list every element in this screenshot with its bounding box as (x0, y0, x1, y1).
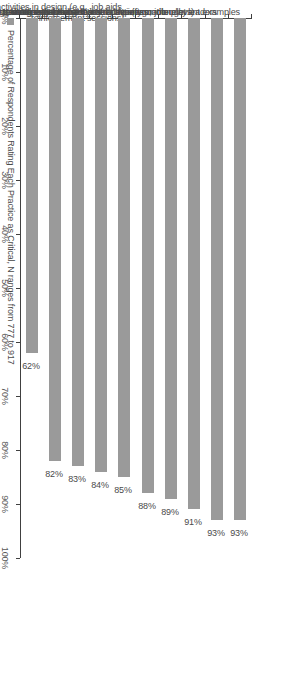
bar-value-label: 82% (45, 469, 62, 479)
value-axis-tick (16, 72, 20, 73)
bar-value-label: 89% (161, 507, 178, 517)
value-axis-tick (16, 504, 20, 505)
bar (72, 18, 84, 466)
bar-value-label: 85% (115, 485, 132, 495)
legend-label: Percentage of Respondents Rating Each Pr… (6, 30, 16, 365)
category-axis-tick (181, 14, 182, 18)
bar-value-label: 88% (138, 501, 155, 511)
value-axis-tick (16, 558, 20, 559)
bar-value-label: 93% (231, 528, 248, 538)
plot-area: 0%10%20%30%40%50%60%70%80%90%100% 93%93%… (20, 18, 252, 558)
bar (188, 18, 200, 509)
value-axis-tick-label: 100% (0, 547, 10, 569)
bar-value-label: 84% (91, 480, 108, 490)
value-axis-tick (16, 288, 20, 289)
category-axis-tick (251, 14, 252, 18)
category-axis-tick (89, 14, 90, 18)
category-axis-tick (205, 14, 206, 18)
legend-swatch-icon (8, 18, 15, 25)
value-axis-tick (16, 342, 20, 343)
category-axis-tick (135, 14, 136, 18)
bar (26, 18, 38, 353)
bar (95, 18, 107, 472)
category-axis-tick (19, 14, 20, 18)
value-axis-tick (16, 126, 20, 127)
bar (49, 18, 61, 461)
bar (142, 18, 154, 493)
bar-value-label: 91% (184, 517, 201, 527)
bar (165, 18, 177, 499)
category-axis-tick (65, 14, 66, 18)
chart-legend: Percentage of Respondents Rating Each Pr… (6, 18, 16, 365)
value-axis-tick-label: 70% (0, 387, 10, 404)
value-axis-tick (16, 450, 20, 451)
bar-value-label: 62% (22, 361, 39, 371)
bar-value-label: 83% (68, 474, 85, 484)
category-axis-tick (228, 14, 229, 18)
value-axis-tick (16, 234, 20, 235)
value-axis-line (20, 18, 21, 558)
bar (118, 18, 130, 477)
value-axis-tick-label: 80% (0, 441, 10, 458)
bar-chart-figure: Use industry, company or job-relevant ex… (0, 0, 300, 697)
bar-value-label: 93% (207, 528, 224, 538)
category-axis-tick (158, 14, 159, 18)
category-axis-tick (42, 14, 43, 18)
bar (234, 18, 246, 520)
value-axis-tick (16, 396, 20, 397)
value-axis-tick-label: 90% (0, 495, 10, 512)
value-axis-tick (16, 180, 20, 181)
bar (211, 18, 223, 520)
value-axis-tick (16, 18, 20, 19)
chart-rotation-wrapper: Use industry, company or job-relevant ex… (0, 0, 300, 697)
category-axis-tick (112, 14, 113, 18)
